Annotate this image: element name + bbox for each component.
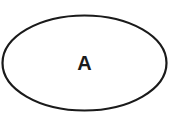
node-a[interactable]: A xyxy=(3,16,167,111)
node-label: A xyxy=(77,52,91,74)
diagram-canvas: A xyxy=(0,0,177,121)
